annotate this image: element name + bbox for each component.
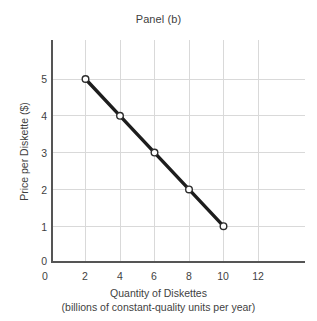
data-point bbox=[82, 76, 89, 83]
x-tick-label-2: 2 bbox=[75, 270, 95, 282]
y-tick-label-3: 3 bbox=[33, 147, 47, 159]
plot-area bbox=[51, 40, 305, 263]
chart-figure: Panel (b) Price per Diskette ($) 0 1 2 3… bbox=[0, 0, 317, 321]
x-tick-label-8: 8 bbox=[179, 270, 199, 282]
y-axis-title: Price per Diskette ($) bbox=[16, 40, 32, 263]
horizontal-gridlines bbox=[51, 79, 305, 226]
data-point bbox=[186, 186, 193, 193]
vertical-gridlines bbox=[86, 40, 259, 263]
chart-title: Panel (b) bbox=[0, 13, 317, 25]
x-tick-label-6: 6 bbox=[144, 270, 164, 282]
data-point bbox=[117, 113, 124, 120]
y-tick-label-1: 1 bbox=[33, 221, 47, 233]
x-tick-label-12: 12 bbox=[248, 270, 268, 282]
x-axis-title-main: Quantity of Diskettes bbox=[0, 286, 317, 300]
y-tick-label-4: 4 bbox=[33, 110, 47, 122]
y-tick-label-5: 5 bbox=[33, 73, 47, 85]
x-axis-title: Quantity of Diskettes (billions of const… bbox=[0, 286, 317, 314]
axis-spines bbox=[51, 40, 305, 263]
y-tick-label-0: 0 bbox=[33, 255, 47, 267]
x-axis-title-sub: (billions of constant-quality units per … bbox=[0, 300, 317, 314]
x-tick-label-4: 4 bbox=[110, 270, 130, 282]
x-tick-label-0: 0 bbox=[35, 270, 55, 282]
y-tick-label-2: 2 bbox=[33, 184, 47, 196]
data-point bbox=[220, 223, 227, 230]
data-point bbox=[151, 149, 158, 156]
x-tick-label-10: 10 bbox=[213, 270, 233, 282]
